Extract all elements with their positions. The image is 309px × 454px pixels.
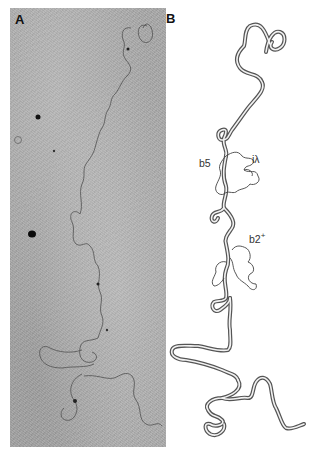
micrograph-panel: [10, 8, 166, 447]
ss-loop-b2: [212, 246, 256, 290]
panel-label-a: A: [15, 12, 24, 27]
annotation-b2-plus: b2+: [249, 231, 265, 245]
figure: A B: [0, 0, 309, 454]
dna-tracing: [166, 8, 309, 454]
annotation-i-lambda: iλ: [252, 153, 260, 165]
annotation-b2-sup: +: [261, 231, 266, 240]
tracing-panel: [166, 8, 309, 454]
dna-strand-micrograph: [10, 8, 166, 447]
annotation-b5: b5: [199, 157, 211, 169]
annotation-b2-base: b2: [249, 233, 261, 245]
